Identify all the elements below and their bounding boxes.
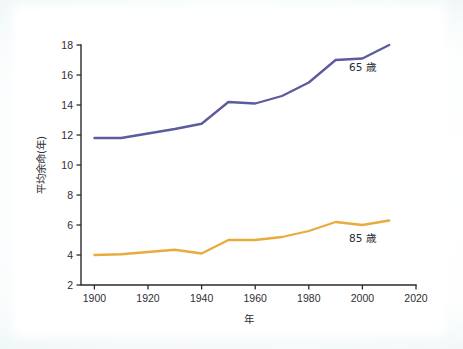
y-axis-title: 平均余命(年) — [35, 136, 47, 194]
y-axis-tick-label: 12 — [61, 129, 73, 141]
x-axis-tick-label: 1900 — [83, 292, 107, 304]
y-axis-tick-label: 10 — [61, 159, 73, 171]
y-axis-tick-label: 2 — [67, 279, 73, 291]
data-series-line-2 — [94, 221, 389, 256]
y-axis-tick-label: 8 — [67, 189, 73, 201]
y-axis-tick-label: 16 — [61, 69, 73, 81]
x-axis-tick-label: 1940 — [190, 292, 214, 304]
line-chart: 2468101214161819001920194019601980200020… — [18, 10, 440, 330]
series-label-2: 85 歳 — [349, 232, 377, 244]
y-axis-tick-label: 18 — [61, 39, 73, 51]
y-axis-tick-label: 14 — [61, 99, 73, 111]
x-axis-tick-label: 2000 — [351, 292, 375, 304]
figure-canvas: 2468101214161819001920194019601980200020… — [0, 0, 463, 349]
y-axis-tick-label: 6 — [67, 219, 73, 231]
data-series-line-1 — [94, 45, 389, 138]
y-axis-tick-label: 4 — [67, 249, 73, 261]
plot-card: 2468101214161819001920194019601980200020… — [18, 10, 440, 330]
axis-spines — [81, 45, 416, 285]
series-label-1: 65 歳 — [349, 61, 377, 73]
x-axis-tick-label: 1980 — [297, 292, 321, 304]
x-axis-tick-label: 1960 — [244, 292, 268, 304]
x-axis-tick-label: 2020 — [404, 292, 428, 304]
x-axis-tick-label: 1920 — [136, 292, 160, 304]
x-axis-title: 年 — [244, 313, 254, 325]
